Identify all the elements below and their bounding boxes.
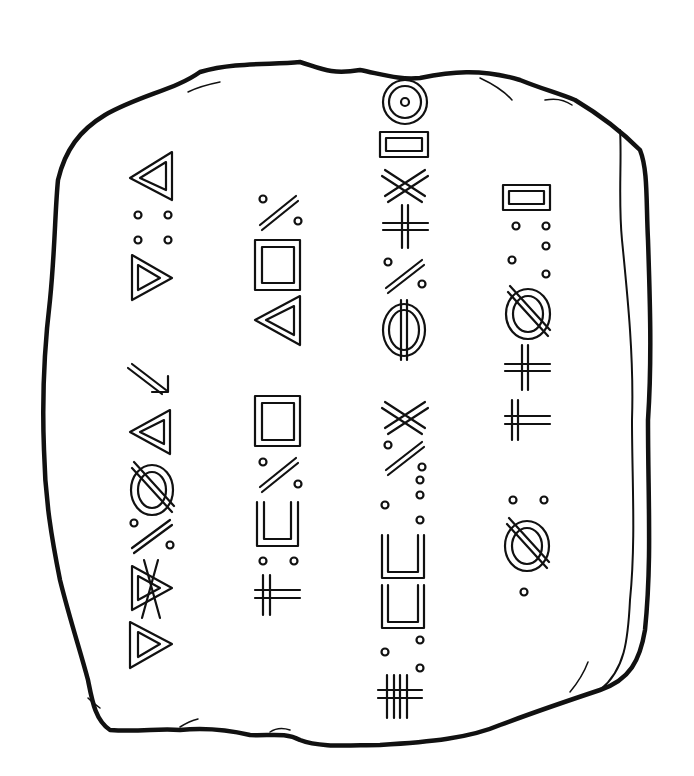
u-shape-icon [257,502,298,546]
u-shape-icon [382,535,424,578]
tablet-side-edge [600,130,633,690]
column-3 [378,80,428,718]
percent-sign-icon [385,442,426,476]
circle-vertical-bar-icon [383,300,425,360]
plus-icon [383,205,428,248]
u-shape-icon [382,585,424,628]
cross-offset-icon [255,575,300,615]
square-icon [255,396,300,446]
column-1 [128,152,174,668]
plus-icon [505,345,550,390]
arrow-down-right-icon [128,364,168,394]
tablet-crack [480,78,512,100]
x-mark-icon [382,170,428,202]
triangle-right-icon [130,622,172,668]
two-dots-icon [510,497,548,504]
x-mark-icon [382,402,428,434]
column-2 [255,196,302,616]
hash-icon [378,675,422,718]
tablet-crack [270,729,290,732]
cross-offset-icon [505,400,550,440]
tablet-crack [188,82,220,92]
circle-slash-icon [506,286,550,339]
triangle-left-icon [130,152,172,200]
two-dots-icon [260,558,298,565]
square-icon [255,240,300,290]
concentric-circle-icon [383,80,427,124]
tablet-crack [545,99,572,105]
percent-sign-icon [385,259,426,294]
circle-slash-icon [131,462,174,515]
triangle-right-icon [132,255,172,300]
four-dots-icon [135,212,172,244]
triangle-left-icon [255,296,300,345]
tablet-crack [570,662,588,692]
three-dots-icon [382,477,424,524]
tablet-crack [180,719,198,727]
column-4 [503,185,550,596]
rectangle-icon [380,132,428,157]
single-dot-icon [521,589,528,596]
tablet-illustration [0,0,694,776]
triangle-left-icon [130,410,170,454]
percent-sign-icon [260,196,302,231]
percent-sign-icon [260,458,302,492]
three-dots-icon [382,637,424,672]
crossed-triangle-icon [132,560,172,618]
four-dots-icon [509,223,550,278]
tablet-outline [43,62,650,746]
percent-sign-icon [131,520,174,554]
circle-slash-icon [505,518,549,571]
rectangle-icon [503,185,550,210]
